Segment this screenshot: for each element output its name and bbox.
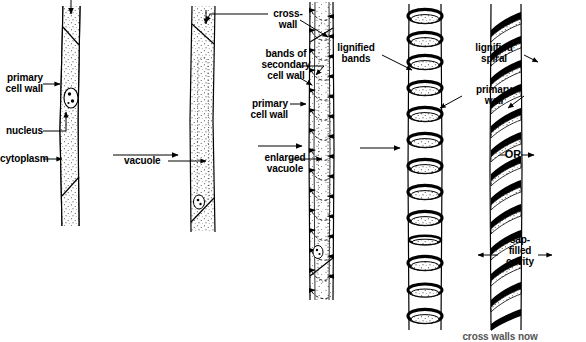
- lignified-rings: [408, 9, 442, 323]
- stage2-vacuolating-cell: [190, 6, 215, 232]
- nucleus-shape-3: [313, 246, 323, 259]
- label-primary-cell-wall-mid: primary cell wall: [234, 98, 288, 120]
- label-nucleus: nucleus: [0, 125, 43, 136]
- label-primary-cell-wall-left: primary cell wall: [0, 72, 43, 94]
- nucleus-shape-2: [194, 195, 205, 209]
- label-sap-filled-cavity: sap- filled cavity: [502, 234, 538, 267]
- label-lignified-spiral: lignified spiral: [466, 42, 522, 64]
- nucleus-shape: [64, 88, 78, 108]
- stage1-young-cell: [60, 0, 80, 226]
- stage4-annular-vessel: [408, 4, 442, 330]
- label-lignified-bands: lignified bands: [330, 42, 382, 64]
- label-bands-of-secondary-cell-wall: bands of secondary cell wall: [258, 48, 314, 81]
- label-cytoplasm: cytoplasm: [0, 153, 43, 164]
- label-bottom-caption: cross walls now: [440, 331, 560, 342]
- label-or-connector: OR: [504, 149, 522, 160]
- label-vacuole: vacuole: [124, 155, 168, 166]
- label-enlarged-vacuole: enlarged vacuole: [258, 152, 312, 174]
- label-primary-wall: primary wall: [466, 84, 522, 106]
- label-cross-wall: cross- wall: [264, 8, 312, 30]
